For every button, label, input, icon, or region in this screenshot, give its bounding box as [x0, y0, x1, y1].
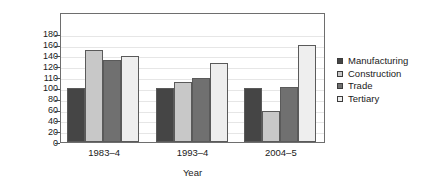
bar: [121, 56, 139, 142]
legend-label: Construction: [348, 69, 401, 79]
chart-legend: ManufacturingConstructionTradeTertiary: [337, 55, 435, 105]
y-tick-label: 110: [24, 74, 58, 83]
y-tick-mark: [55, 143, 60, 144]
legend-swatch-icon: [337, 58, 343, 64]
bar-group: [244, 14, 320, 142]
y-tick-label: 60: [24, 106, 58, 115]
legend-swatch-icon: [337, 71, 343, 77]
x-tick-label: 1993–4: [148, 148, 238, 158]
legend-swatch-icon: [337, 96, 343, 102]
bar-group: [67, 14, 143, 142]
bar-chart-figure: Relative productivity 020406080100110120…: [0, 0, 437, 186]
x-axis-title: Year: [60, 167, 325, 178]
y-tick-label: 120: [24, 63, 58, 72]
bar: [244, 88, 262, 142]
bar-group: [156, 14, 232, 142]
legend-label: Tertiary: [348, 94, 379, 104]
legend-label: Manufacturing: [348, 56, 408, 66]
bar: [210, 63, 228, 142]
y-tick-label: 100: [24, 84, 58, 93]
y-tick-label: 140: [24, 52, 58, 61]
y-tick-label: 0: [24, 139, 58, 148]
y-tick-label: 40: [24, 117, 58, 126]
bar: [85, 50, 103, 142]
legend-item: Manufacturing: [337, 55, 435, 67]
y-tick-label: 180: [24, 30, 58, 39]
bar: [298, 45, 316, 143]
bar: [174, 82, 192, 142]
legend-label: Trade: [348, 81, 372, 91]
y-tick-label: 160: [24, 41, 58, 50]
bar: [192, 78, 210, 142]
plot-area: [60, 13, 325, 143]
bar: [280, 87, 298, 142]
legend-item: Construction: [337, 68, 435, 80]
bar: [67, 88, 85, 142]
x-tick-label: 1983–4: [59, 148, 149, 158]
bar: [262, 111, 280, 142]
legend-item: Trade: [337, 80, 435, 92]
y-tick-label: 20: [24, 128, 58, 137]
bar: [103, 60, 121, 142]
legend-item: Tertiary: [337, 93, 435, 105]
bar: [156, 88, 174, 142]
y-tick-label: 80: [24, 95, 58, 104]
legend-swatch-icon: [337, 83, 343, 89]
plot-inner: [61, 14, 324, 142]
x-tick-label: 2004–5: [236, 148, 326, 158]
